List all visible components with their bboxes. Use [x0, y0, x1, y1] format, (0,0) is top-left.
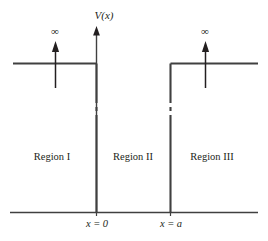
region-label-ii: Region II — [113, 152, 153, 163]
left-infinity-arrowhead — [52, 41, 59, 52]
right-infinity-symbol: ∞ — [201, 26, 209, 37]
axis-title-v-of-x: V(x) — [95, 10, 114, 21]
right-infinity-arrowhead — [202, 41, 209, 52]
tick-label-x-equals-0: x = 0 — [86, 219, 108, 230]
tick-label-x-equals-a: x = a — [160, 219, 182, 230]
right-infinity-arrow — [202, 41, 209, 88]
region-label-iii: Region III — [190, 152, 233, 163]
vertical-axis-arrowhead — [93, 26, 100, 36]
left-infinity-arrow — [52, 41, 59, 88]
potential-energy-diagram: V(x) ∞ ∞ Region I Region II Region III x… — [0, 0, 268, 241]
left-infinity-symbol: ∞ — [51, 26, 59, 37]
diagram-canvas — [0, 0, 268, 241]
region-label-i: Region I — [34, 152, 70, 163]
